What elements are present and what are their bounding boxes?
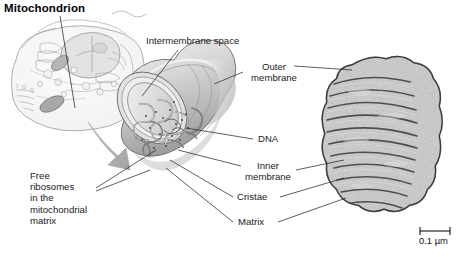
label-outer-membrane-line1: Outer [246,61,302,72]
label-free-ribosomes-line2: ribosomes [30,181,100,192]
scale-bar-label: 0.1 µm [419,235,448,246]
label-free-ribosomes-line1: Free [30,170,100,181]
label-free-ribosomes-line5: matrix [30,215,100,226]
label-inner-membrane: Inner membrane [240,160,296,182]
leader-matrix-left [166,168,233,222]
label-outer-membrane-line2: membrane [246,72,302,83]
label-outer-membrane: Outer membrane [246,61,302,83]
label-free-ribosomes-line4: mitochondrial [30,204,100,215]
label-free-ribosomes: Free ribosomes in the mitochondrial matr… [30,170,100,226]
leader-matrix-right [278,198,346,222]
mitochondrion-figure: Mitochondrion [0,0,462,257]
label-matrix: Matrix [238,216,264,227]
label-cristae: Cristae [237,191,267,202]
label-intermembrane-space: Intermembrane space [146,35,239,46]
label-inner-membrane-line2: membrane [240,171,296,182]
label-free-ribosomes-line3: in the [30,192,100,203]
label-dna: DNA [258,133,278,144]
scale-bar [420,227,450,235]
label-inner-membrane-line1: Inner [240,160,296,171]
leader-free-ribosomes-b [96,170,150,191]
mitochondrion-electron-micrograph [320,55,460,240]
